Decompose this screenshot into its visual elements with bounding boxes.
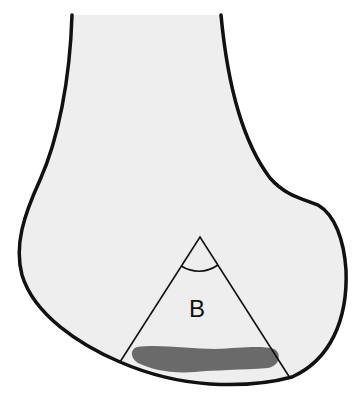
lesion-band xyxy=(132,346,279,372)
bone-diagram: B xyxy=(0,0,353,400)
region-label-b: B xyxy=(189,295,205,322)
